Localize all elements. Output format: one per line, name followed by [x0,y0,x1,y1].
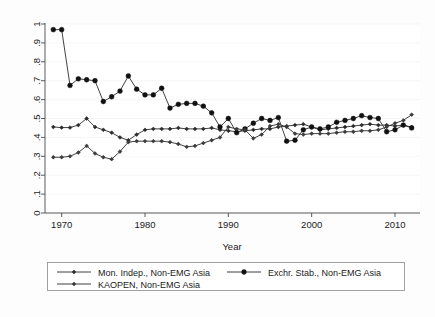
data-point [109,94,114,99]
y-tick-label: .4 [31,133,42,141]
x-axis-title: Year [222,241,241,252]
data-point [68,83,73,88]
x-tick-label: 2000 [301,219,322,230]
y-tick-label: 0 [31,210,42,215]
data-point [368,115,373,120]
data-point [176,102,181,107]
data-point [343,118,348,123]
x-tick-label: 1970 [51,219,72,230]
y-tick-label: .3 [31,152,42,160]
data-point [126,74,131,79]
data-point [318,126,323,131]
data-point [118,89,123,94]
chart-canvas: 0.1.2.3.4.5.6.7.8.91 1970198019902000201… [0,0,435,317]
data-point [351,116,356,121]
y-tick-label: .9 [31,39,42,47]
y-tick-label: .5 [31,115,42,123]
data-point [301,127,306,132]
data-point [334,120,339,125]
y-tick-label: .7 [31,77,42,85]
y-tick-label: .1 [31,190,42,198]
data-point [393,127,398,132]
data-point [293,138,298,143]
y-tick-label: .8 [31,58,42,66]
data-point [384,129,389,134]
data-point [134,87,139,92]
legend-label: KAOPEN, Non-EMG Asia [98,280,200,290]
data-point [159,86,164,91]
data-point [59,27,64,32]
y-tick-label: 1 [31,21,42,26]
data-point [209,110,214,115]
legend-label: Exchr. Stab., Non-EMG Asia [268,268,381,278]
chart-figure: 0.1.2.3.4.5.6.7.8.91 1970198019902000201… [0,0,435,317]
data-point [401,123,406,128]
data-point [376,116,381,121]
data-point [143,92,148,97]
data-point [184,101,189,106]
data-point [218,125,223,130]
data-point [226,116,231,121]
data-point [168,106,173,111]
data-point [193,101,198,106]
y-tick-label: .2 [31,171,42,179]
data-point [326,125,331,130]
data-point [276,115,281,120]
data-point [51,27,56,32]
x-tick-label: 2010 [384,219,405,230]
data-point [268,118,273,123]
data-point [242,270,247,275]
data-point [259,116,264,121]
data-point [251,121,256,126]
x-tick-label: 1980 [134,219,155,230]
y-tick-label: .6 [31,96,42,104]
data-point [93,78,98,83]
chart-legend: Mon. Indep., Non-EMG AsiaExchr. Stab., N… [48,263,405,291]
data-point [201,104,206,109]
data-point [151,92,156,97]
data-point [84,77,89,82]
data-point [359,113,364,118]
x-tick-label: 1990 [218,219,239,230]
data-point [76,76,81,81]
legend-label: Mon. Indep., Non-EMG Asia [98,268,210,278]
data-point [284,139,289,144]
data-point [309,125,314,130]
data-point [409,126,414,131]
data-point [101,99,106,104]
